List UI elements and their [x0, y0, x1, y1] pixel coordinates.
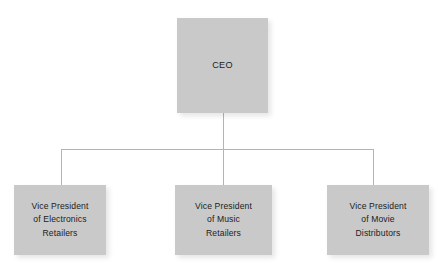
org-node-ceo-label: CEO	[208, 59, 236, 73]
org-node-vp-electronics-label: Vice President of Electronics Retailers	[28, 200, 93, 239]
org-chart-canvas: CEO Vice President of Electronics Retail…	[0, 0, 444, 274]
connector-horizontal-bus	[61, 149, 374, 150]
org-node-vp-movie-label: Vice President of Movie Distributors	[346, 200, 411, 239]
org-node-vp-music-label: Vice President of Music Retailers	[191, 200, 256, 239]
connector-drop-electronics	[61, 149, 62, 186]
org-node-vp-electronics: Vice President of Electronics Retailers	[14, 185, 106, 255]
org-node-vp-music: Vice President of Music Retailers	[175, 185, 272, 255]
connector-drop-movie	[373, 149, 374, 186]
org-node-ceo: CEO	[177, 18, 268, 113]
org-node-vp-movie: Vice President of Movie Distributors	[327, 185, 429, 255]
